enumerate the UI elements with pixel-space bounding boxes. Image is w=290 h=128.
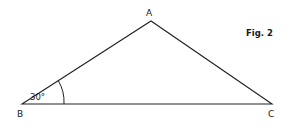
triangle-abc — [22, 21, 272, 104]
triangle-diagram — [0, 0, 290, 128]
angle-arc-b — [58, 81, 64, 104]
vertex-label-a: A — [146, 9, 152, 18]
figure-caption: Fig. 2 — [246, 29, 273, 38]
vertex-label-b: B — [17, 110, 23, 119]
vertex-label-c: C — [268, 110, 274, 119]
angle-label-b: 30° — [30, 93, 45, 102]
